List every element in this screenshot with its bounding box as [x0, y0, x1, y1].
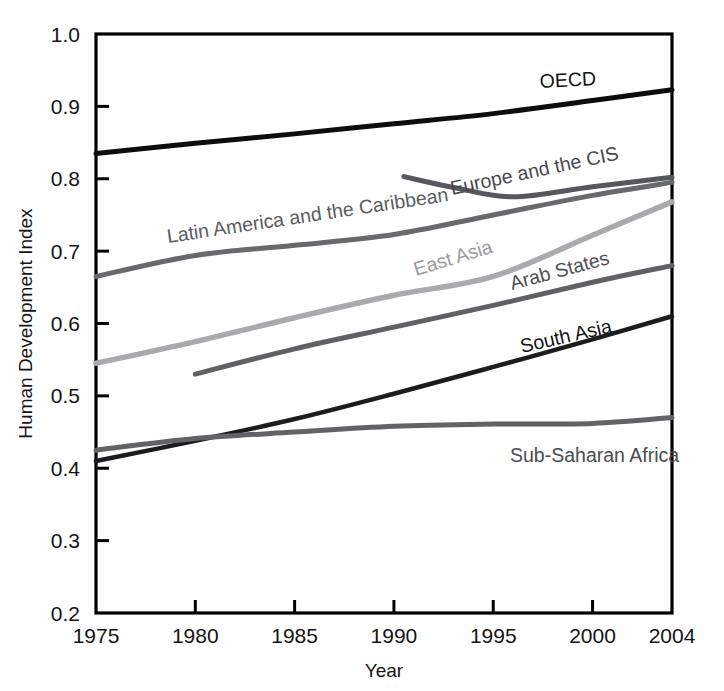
hdi-line-chart: 0.20.30.40.50.60.70.80.91.01975198019851…: [0, 0, 724, 691]
y-axis-title: Human Development Index: [15, 208, 36, 439]
x-tick-label: 1995: [470, 624, 517, 647]
series-label: Latin America and the Caribbean: [165, 183, 449, 247]
y-tick-label: 0.4: [51, 457, 81, 480]
x-tick-label: 1990: [371, 624, 418, 647]
series-label: Arab States: [507, 246, 611, 294]
series-label: Europe and the CIS: [448, 142, 620, 199]
series-lines: [96, 90, 672, 461]
y-tick-label: 0.5: [51, 384, 80, 407]
y-tick-label: 0.6: [51, 312, 80, 335]
x-tick-label: 2004: [649, 624, 696, 647]
x-tick-label: 2000: [569, 624, 616, 647]
x-tick-label: 1980: [172, 624, 219, 647]
chart-canvas: 0.20.30.40.50.60.70.80.91.01975198019851…: [0, 0, 724, 691]
series-labels: OECDEurope and the CISLatin America and …: [165, 67, 679, 466]
y-tick-label: 0.8: [51, 167, 80, 190]
y-tick-label: 0.3: [51, 529, 80, 552]
y-tick-label: 0.7: [51, 240, 80, 263]
y-tick-label: 0.9: [51, 95, 80, 118]
x-axis-title: Year: [365, 660, 404, 681]
y-tick-label: 1.0: [51, 23, 80, 46]
y-tick-label: 0.2: [51, 602, 80, 625]
series-label: East Asia: [411, 235, 495, 280]
series-label: Sub-Saharan Africa: [510, 444, 679, 466]
series-line: [96, 90, 672, 154]
series-label: OECD: [539, 67, 596, 92]
series-label: South Asia: [518, 314, 614, 356]
x-tick-label: 1985: [271, 624, 318, 647]
x-tick-label: 1975: [73, 624, 120, 647]
